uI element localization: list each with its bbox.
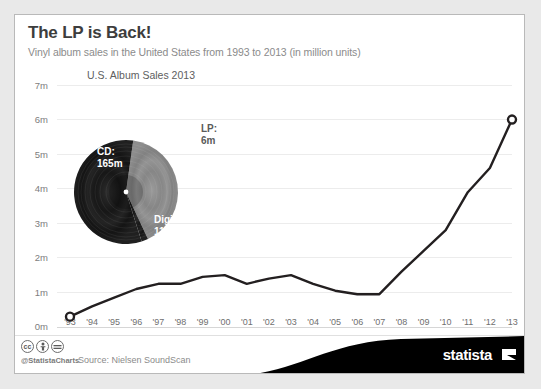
statista-logo-text[interactable]: statista	[443, 346, 492, 363]
statista-logo-mark	[501, 347, 517, 362]
cc-nd-icon[interactable]	[51, 340, 64, 353]
line-series-layer	[15, 59, 525, 335]
page-title: The LP is Back!	[28, 23, 151, 43]
data-point-marker	[508, 116, 516, 124]
page-subtitle: Vinyl album sales in the United States f…	[28, 46, 361, 58]
statista-handle[interactable]: @StatistaCharts	[21, 356, 79, 365]
infographic-card: The LP is Back! Vinyl album sales in the…	[14, 14, 525, 374]
equals-glyph	[53, 344, 62, 350]
line-chart: 7m 6m 5m 4m 3m 2m 1m 0m '93'94'95'96'97'…	[15, 59, 525, 335]
creative-commons-icons[interactable]: cc	[21, 340, 64, 353]
person-glyph	[39, 342, 47, 351]
vinyl-sales-line	[70, 120, 512, 317]
cc-icon[interactable]: cc	[21, 340, 34, 353]
source-note: Source: Nielsen SoundScan	[78, 355, 191, 365]
chart-footer: cc @StatistaCharts Source: Nielsen Sound…	[15, 335, 525, 374]
cc-by-person-icon[interactable]	[36, 340, 49, 353]
data-point-marker	[66, 313, 74, 321]
